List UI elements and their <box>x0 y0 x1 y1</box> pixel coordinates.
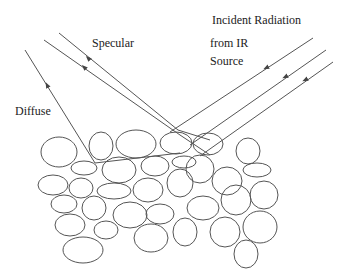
specular-rays <box>44 33 210 155</box>
specular-label: Specular <box>92 36 134 50</box>
incident-label-line1: Incident Radiation <box>212 13 301 27</box>
particle-bed <box>38 130 278 268</box>
diffuse-label: Diffuse <box>15 104 51 118</box>
diffuse-reflection-diagram: Specular Diffuse Incident Radiation from… <box>0 0 346 279</box>
incident-label-line3: Source <box>210 54 243 68</box>
incident-label-line2: from IR <box>210 36 248 50</box>
